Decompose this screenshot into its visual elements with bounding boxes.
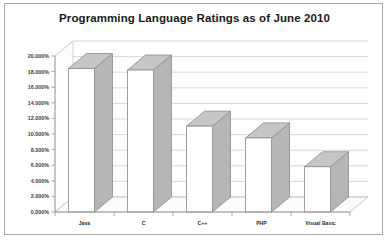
bar-front-face [128,70,154,212]
y-axis-tick-label: 2.000% [31,193,49,199]
bar-front-face [246,138,272,212]
bar-java[interactable] [69,53,113,212]
bar-side-face [272,123,290,212]
bars-group [69,53,349,212]
y-axis-tick-label: 8.000% [31,147,49,153]
bar-c-[interactable] [187,111,231,212]
x-axis-category-label: Visual Basic [305,220,336,226]
chart-plot-area: 0.000%2.000%4.000%6.000%8.000%10.000%12.… [5,4,384,236]
bar-c[interactable] [128,55,172,212]
bar-front-face [187,126,213,212]
y-axis-tick-label: 14.000% [28,100,49,106]
bar-visual-basic[interactable] [305,152,349,212]
y-axis-tick-label: 12.000% [28,115,49,121]
y-axis-labels-group: 0.000%2.000%4.000%6.000%8.000%10.000%12.… [28,53,55,215]
x-axis-category-label: C [142,220,146,226]
y-axis-tick-label: 6.000% [31,162,49,168]
bar-php[interactable] [246,123,290,212]
bar-side-face [154,55,172,212]
y-axis-tick-label: 16.000% [28,84,49,90]
y-axis-tick-label: 18.000% [28,69,49,75]
chart-frame: Programming Language Ratings as of June … [4,3,383,235]
y-axis-tick-label: 20.000% [28,53,49,59]
bar-side-face [213,111,231,212]
y-axis-tick-label: 4.000% [31,178,49,184]
x-axis-category-label: C++ [198,220,208,226]
bar-front-face [305,167,331,212]
bar-side-face [95,53,113,212]
x-axis-labels-group: JavaCC++PHPVisual Basic [79,220,336,226]
bar-front-face [69,68,95,212]
y-axis-tick-label: 10.000% [28,131,49,137]
x-axis-category-label: Java [79,220,91,226]
x-axis-category-label: PHP [256,220,267,226]
y-axis-tick-label: 0.000% [31,209,49,215]
